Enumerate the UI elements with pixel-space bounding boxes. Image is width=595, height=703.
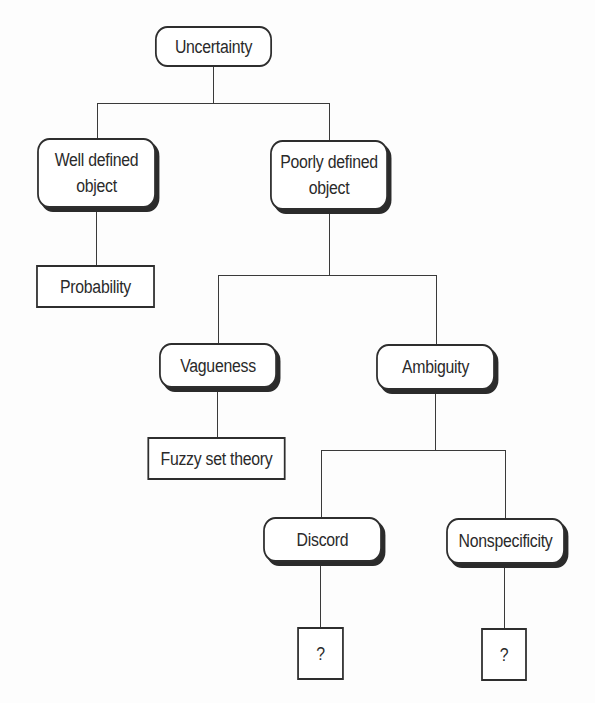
node-nonspecificity: Nonspecificity [446,518,565,564]
connector-to-discord [321,450,322,518]
node-label: Ambiguity [402,354,469,380]
connector-ambiguity-down [435,391,436,451]
connector-to-well-defined [97,103,98,139]
node-label: Nonspecificity [458,528,552,554]
connector-root-down [213,67,214,103]
connector-to-vagueness [218,275,219,344]
node-discord: Discord [263,517,382,562]
connector-to-ambiguity [436,275,437,345]
node-label: Probability [60,274,131,300]
node-nonspecificity-unknown-theory: ? [481,628,527,681]
connector-level3-bar [321,450,506,451]
connector-nonspecificity-to-unknown [504,565,505,629]
node-label: Poorly defined object [280,149,378,201]
connector-level2-bar [218,275,437,276]
node-poorly-defined-object: Poorly defined object [270,140,388,210]
connector-discord-to-unknown [320,563,321,628]
node-label: Fuzzy set theory [161,446,273,472]
connector-vagueness-to-fuzzy [217,389,218,438]
connector-well-defined-to-probability [96,210,97,266]
node-well-defined-object: Well defined object [37,138,156,208]
node-ambiguity: Ambiguity [376,344,495,390]
connector-level1-bar [97,103,330,104]
node-label: Well defined object [55,147,139,199]
connector-poorly-defined-down [329,212,330,276]
node-uncertainty: Uncertainty [155,26,272,67]
uncertainty-taxonomy-diagram: Uncertainty Well defined object Poorly d… [0,0,595,703]
node-discord-unknown-theory: ? [297,627,344,680]
node-probability: Probability [36,265,155,308]
node-label: ? [316,641,325,667]
node-label: ? [500,642,509,668]
connector-to-nonspecificity [505,450,506,519]
node-vagueness: Vagueness [159,343,277,388]
node-label: Discord [297,527,349,553]
connector-to-poorly-defined [329,103,330,141]
node-fuzzy-set-theory: Fuzzy set theory [147,437,285,480]
node-label: Vagueness [180,353,256,379]
node-label: Uncertainty [175,34,252,60]
